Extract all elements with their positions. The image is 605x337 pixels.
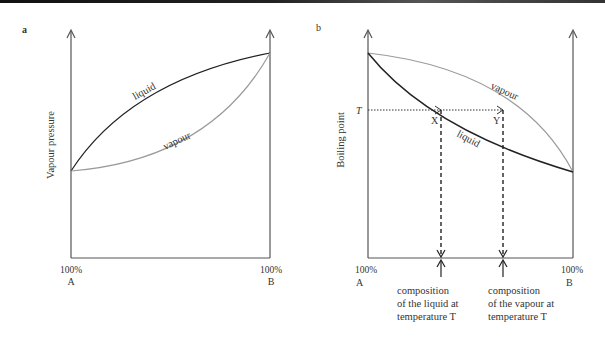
- x-left-tick: 100%: [60, 265, 82, 275]
- vapour-curve: [368, 53, 573, 172]
- x-left-label: A: [67, 276, 75, 287]
- svg-text:temperature T: temperature T: [397, 311, 457, 322]
- x-right-label: B: [566, 277, 573, 288]
- x-right-tick: 100%: [260, 265, 282, 275]
- point-x-label: X: [431, 115, 439, 126]
- phase-diagrams: a liquid vapour Vapour pressure 100% A 1…: [0, 0, 605, 337]
- panel-b: b vapour liquid T X Y Boiling point 100%…: [316, 22, 583, 322]
- liquid-curve: [368, 53, 573, 172]
- vapour-curve: [71, 53, 270, 171]
- liquid-curve-label: liquid: [131, 80, 158, 102]
- temperature-label: T: [356, 105, 363, 116]
- svg-text:of the vapour at: of the vapour at: [488, 298, 554, 309]
- svg-text:composition: composition: [397, 285, 450, 296]
- y-axis-label: Boiling point: [335, 112, 346, 168]
- liquid-curve: [71, 53, 270, 171]
- panel-a-label: a: [22, 24, 27, 35]
- svg-text:of the liquid at: of the liquid at: [397, 298, 459, 309]
- x-right-tick: 100%: [561, 265, 583, 275]
- annotation-vapour: composition of the vapour at temperature…: [488, 285, 554, 322]
- vapour-curve-label: vapour: [161, 129, 193, 152]
- svg-text:temperature T: temperature T: [488, 311, 548, 322]
- svg-text:composition: composition: [488, 285, 541, 296]
- annotation-liquid: composition of the liquid at temperature…: [397, 285, 459, 322]
- y-axis-label: Vapour pressure: [45, 111, 56, 179]
- panel-b-label: b: [316, 22, 321, 33]
- x-left-label: A: [356, 277, 364, 288]
- vapour-curve-label: vapour: [489, 80, 521, 103]
- point-y-label: Y: [493, 115, 500, 126]
- panel-a: a liquid vapour Vapour pressure 100% A 1…: [22, 24, 282, 287]
- x-left-tick: 100%: [355, 265, 377, 275]
- x-right-label: B: [268, 276, 275, 287]
